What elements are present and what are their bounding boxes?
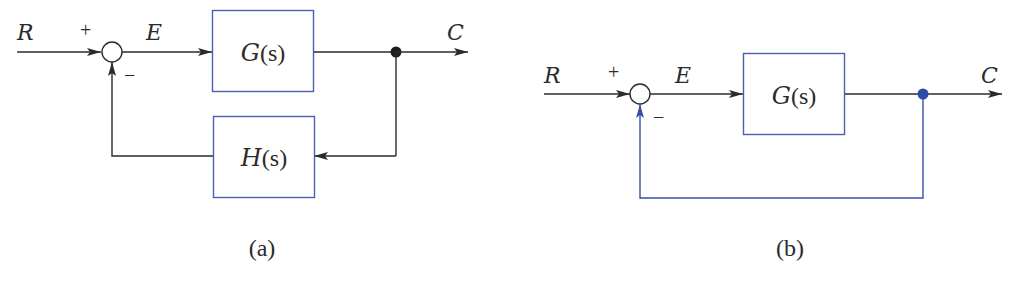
input-label: R xyxy=(16,20,34,45)
plus-sign: + xyxy=(80,19,91,41)
caption-b: (b) xyxy=(776,235,804,261)
output-label: C xyxy=(447,20,464,45)
output-label: C xyxy=(981,63,998,88)
plus-sign: + xyxy=(608,61,619,83)
input-label: R xyxy=(543,63,561,88)
block-diagrams: R + − E G(s) C H(s) (a) R xyxy=(0,0,1009,282)
error-label: E xyxy=(145,20,162,45)
minus-sign: − xyxy=(124,64,135,86)
feedback-block-label: H(s) xyxy=(240,144,287,172)
caption-a: (a) xyxy=(249,235,276,261)
summing-junction xyxy=(102,42,122,62)
forward-block-label: G(s) xyxy=(241,39,286,67)
diagram-a: R + − E G(s) C H(s) (a) xyxy=(16,11,468,262)
diagram-b: R + − E G(s) C (b) xyxy=(543,54,1002,262)
summing-junction xyxy=(630,84,650,104)
error-label: E xyxy=(674,63,691,88)
takeoff-point xyxy=(918,89,929,100)
minus-sign: − xyxy=(653,106,664,128)
forward-block-label: G(s) xyxy=(772,82,817,110)
